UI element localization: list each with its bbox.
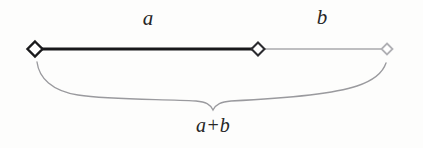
right-endpoint-diamond-icon	[382, 44, 393, 55]
middle-endpoint-diamond-icon	[252, 43, 265, 56]
left-endpoint-diamond-icon	[28, 42, 43, 57]
total-span-brace	[37, 62, 386, 110]
total-length-label: a+b	[150, 115, 276, 135]
segment-a-label: a	[0, 8, 296, 29]
segment-b-label: b	[258, 7, 386, 28]
segment-addition-figure: a b a+b	[0, 0, 423, 148]
